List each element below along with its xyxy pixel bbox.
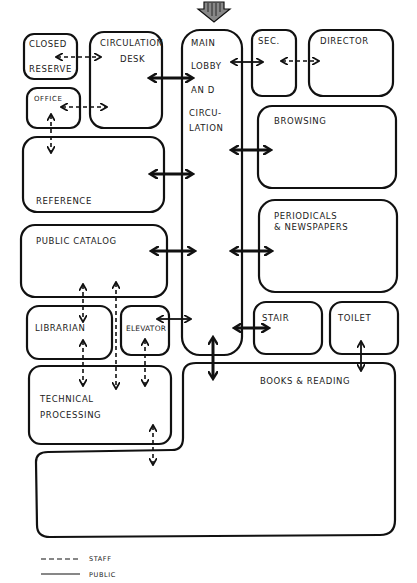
sec-label: SEC. <box>258 36 280 46</box>
room-public-catalog: PUBLIC CATALOG <box>21 225 167 297</box>
books-reading-label: BOOKS & READING <box>260 376 350 386</box>
technical-processing-label-2: PROCESSING <box>40 410 101 420</box>
periodicals-label-1: PERIODICALS <box>274 211 337 221</box>
room-sec: SEC. <box>252 30 296 96</box>
room-reference: REFERENCE <box>23 137 164 212</box>
toilet-label: TOILET <box>337 313 371 323</box>
room-librarian: LIBRARIAN <box>27 306 112 359</box>
director-label: DIRECTOR <box>320 36 369 46</box>
room-technical-processing: TECHNICAL PROCESSING <box>29 366 171 444</box>
legend-public-label: PUBLIC <box>89 571 116 579</box>
room-periodicals: PERIODICALS & NEWSPAPERS <box>259 200 397 292</box>
lobby-label-2: LOBBY <box>191 61 222 71</box>
closed-reserve-label-2: RESERVE <box>29 64 72 74</box>
lobby-label-4: CIRCU- <box>189 108 222 118</box>
office-label: OFFICE <box>34 95 63 103</box>
room-director: DIRECTOR <box>309 30 393 96</box>
technical-processing-label-1: TECHNICAL <box>39 394 94 404</box>
room-browsing: BROWSING <box>258 106 396 188</box>
room-circulation-desk: CIRCULATION DESK <box>90 32 164 128</box>
public-catalog-label: PUBLIC CATALOG <box>36 236 117 246</box>
lobby-label-1: MAIN <box>191 38 215 48</box>
librarian-label: LIBRARIAN <box>35 323 85 333</box>
room-closed-reserve: CLOSED RESERVE <box>24 34 77 79</box>
room-books-reading: BOOKS & READING <box>36 363 395 537</box>
lobby-label-5: LATION <box>189 123 223 133</box>
lobby-label-3: AN D <box>191 85 215 95</box>
legend: STAFF PUBLIC <box>41 555 116 579</box>
room-toilet: TOILET <box>330 302 398 354</box>
elevator-label: ELEVATOR <box>126 324 166 333</box>
periodicals-label-2: & NEWSPAPERS <box>274 222 348 232</box>
legend-staff-label: STAFF <box>89 555 112 563</box>
room-office: OFFICE <box>27 88 80 128</box>
library-adjacency-diagram: CLOSED RESERVE CIRCULATION DESK MAIN LOB… <box>0 0 417 583</box>
circulation-desk-label-1: CIRCULATION <box>100 38 164 48</box>
browsing-label: BROWSING <box>274 116 326 126</box>
closed-reserve-label-1: CLOSED <box>29 39 67 49</box>
stair-label: STAIR <box>262 313 289 323</box>
entrance-arrow-icon <box>198 2 230 22</box>
circulation-desk-label-2: DESK <box>120 54 145 64</box>
reference-label: REFERENCE <box>36 196 92 206</box>
